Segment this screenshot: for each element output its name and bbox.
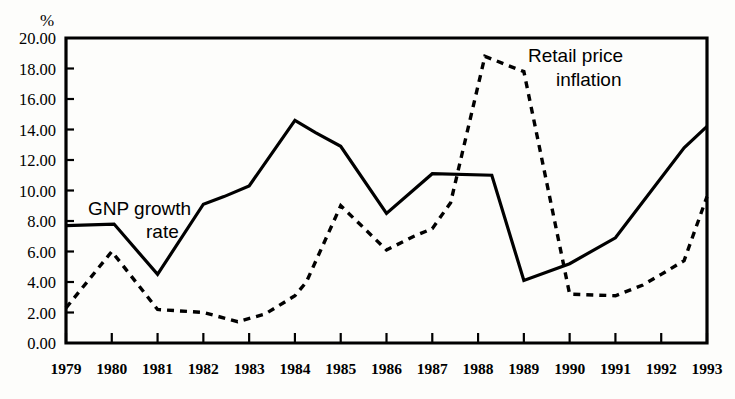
y-tick-label: 20.00 (19, 29, 56, 48)
y-tick-label: 10.00 (19, 182, 56, 201)
y-tick-label: 4.00 (27, 273, 56, 292)
y-tick-label: 16.00 (19, 90, 56, 109)
y-tick-label: 6.00 (27, 243, 56, 262)
x-tick-label: 1989 (508, 360, 539, 377)
x-tick-label: 1983 (234, 360, 265, 377)
x-axis-tick-labels: 1979198019811982198319841985198619871988… (51, 360, 723, 377)
x-tick-label: 1982 (188, 360, 219, 377)
y-tick-label: 0.00 (27, 334, 56, 353)
x-tick-label: 1985 (325, 360, 356, 377)
x-tick-label: 1991 (600, 360, 631, 377)
x-tick-label: 1987 (417, 360, 448, 377)
y-tick-label: 18.00 (19, 60, 56, 79)
y-axis-unit-label: % (40, 11, 54, 30)
gnp-series-annotation-line1: GNP growth (88, 198, 191, 219)
rpi-series-annotation-line2: inflation (556, 69, 622, 90)
y-axis-tick-labels: 0.002.004.006.008.0010.0012.0014.0016.00… (19, 29, 56, 353)
x-tick-label: 1988 (463, 360, 494, 377)
rpi-series-annotation-line1: Retail price (528, 45, 623, 66)
y-tick-label: 12.00 (19, 151, 56, 170)
x-tick-label: 1990 (554, 360, 585, 377)
x-tick-label: 1984 (279, 360, 310, 377)
gnp-series-annotation-line2: rate (146, 221, 179, 242)
y-tick-label: 14.00 (19, 121, 56, 140)
series-line-retail-price-inflation (66, 56, 707, 321)
x-tick-label: 1986 (371, 360, 402, 377)
y-tick-label: 2.00 (27, 304, 56, 323)
x-tick-label: 1993 (692, 360, 723, 377)
y-tick-label: 8.00 (27, 212, 56, 231)
x-tick-label: 1979 (51, 360, 82, 377)
x-tick-label: 1992 (646, 360, 677, 377)
x-tick-label: 1981 (142, 360, 173, 377)
chart-container: 0.002.004.006.008.0010.0012.0014.0016.00… (0, 0, 735, 399)
line-chart: 0.002.004.006.008.0010.0012.0014.0016.00… (0, 0, 735, 399)
x-tick-label: 1980 (96, 360, 127, 377)
